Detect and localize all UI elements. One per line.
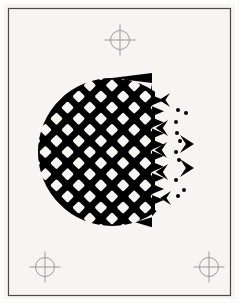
screenshot-root: Halftone Lattice Test Target regular gri… [0, 0, 239, 303]
test-target-image [0, 0, 239, 303]
